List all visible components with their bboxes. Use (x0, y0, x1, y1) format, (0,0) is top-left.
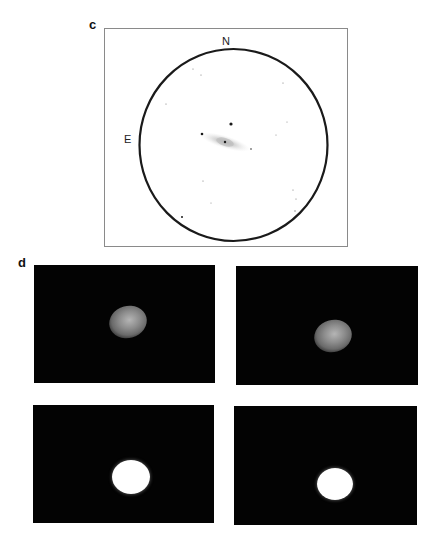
star (211, 203, 212, 204)
star (276, 135, 277, 136)
object-blob (106, 302, 151, 343)
object-blob (311, 316, 356, 357)
star (292, 189, 293, 190)
image-panel-top-left (34, 265, 215, 383)
star (287, 122, 288, 123)
star (250, 148, 252, 150)
star (165, 103, 166, 104)
star (224, 141, 226, 143)
image-panel-bottom-right (234, 406, 417, 525)
field-of-view-sketch (0, 0, 437, 260)
object-blob (317, 468, 353, 500)
image-panel-bottom-left (33, 405, 214, 523)
object-blob (112, 460, 150, 494)
compass-east: E (124, 134, 131, 145)
image-panel-top-right (236, 266, 418, 385)
star (295, 198, 296, 199)
star (201, 133, 204, 136)
star (192, 68, 193, 69)
star (200, 74, 201, 75)
star (202, 180, 203, 181)
panel-label-d: d (18, 256, 26, 269)
star (229, 122, 232, 125)
star (181, 216, 183, 218)
compass-north: N (222, 36, 230, 47)
star (294, 210, 295, 211)
star (282, 82, 283, 83)
